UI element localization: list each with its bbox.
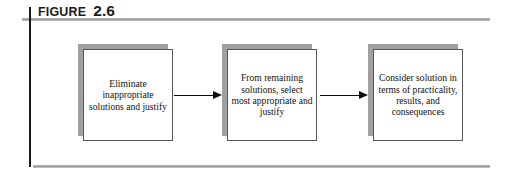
arrow-right-icon (359, 91, 368, 99)
flow-step-1-text: Eliminate inappropriate solutions and ju… (84, 78, 172, 112)
flow-step-3-box: Consider solution in terms of practicali… (373, 49, 463, 141)
flow-step-1-box: Eliminate inappropriate solutions and ju… (83, 49, 173, 141)
figure-label: FIGURE 2.6 (36, 2, 115, 18)
flow-step-1: Eliminate inappropriate solutions and ju… (78, 44, 174, 142)
flow-step-3-text: Consider solution in terms of practicali… (374, 72, 462, 118)
arrow-right-icon (213, 91, 222, 99)
figure-label-word: FIGURE (38, 4, 86, 19)
arrow-shaft (320, 95, 360, 97)
flow-step-3: Consider solution in terms of practicali… (368, 44, 464, 142)
flow-arrow-2-to-3 (320, 91, 368, 100)
flow-step-2-box: From remaining solutions, select most ap… (227, 49, 317, 141)
arrow-shaft (174, 95, 214, 97)
flow-arrow-1-to-2 (174, 91, 222, 100)
figure-container: FIGURE 2.6 Eliminate inappropriate solut… (0, 0, 511, 180)
process-flow-diagram: Eliminate inappropriate solutions and ju… (70, 40, 480, 148)
figure-top-rule (22, 18, 490, 21)
flow-step-2-text: From remaining solutions, select most ap… (228, 72, 316, 118)
figure-left-spine (29, 7, 31, 167)
figure-bottom-rule (33, 165, 490, 168)
flow-step-2: From remaining solutions, select most ap… (222, 44, 318, 142)
figure-label-number: 2.6 (93, 2, 115, 20)
